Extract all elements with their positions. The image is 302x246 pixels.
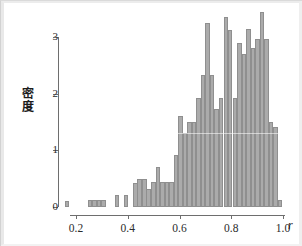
plot-area	[59, 37, 287, 207]
y-axis-tick-label: 1	[42, 144, 58, 155]
x-axis-tick-label: 0.4	[113, 222, 143, 234]
histogram-bar	[65, 201, 70, 207]
x-axis-tick	[283, 215, 284, 219]
histogram-bar	[101, 200, 106, 207]
histogram-bar	[124, 195, 129, 207]
histogram-bar	[115, 195, 120, 207]
x-axis-tick	[76, 215, 77, 219]
y-axis-tick-label: 0	[42, 201, 58, 212]
x-axis-tick-label: 1.0	[268, 222, 298, 234]
y-axis-tick-label: 2	[42, 88, 58, 99]
x-axis-tick-label: 0.2	[61, 222, 91, 234]
x-axis-tick	[180, 215, 181, 219]
x-axis-tick	[128, 215, 129, 219]
y-axis-line	[58, 37, 59, 207]
x-axis-tick	[231, 215, 232, 219]
histogram-bar	[278, 200, 283, 207]
histogram-chart: 0123 密度 0.20.40.60.81.0 r	[0, 0, 302, 246]
x-axis-tick-label: 0.6	[165, 222, 195, 234]
histogram-bars	[59, 37, 287, 207]
histogram-bar	[273, 127, 278, 207]
figure-page: 0123 密度 0.20.40.60.81.0 r	[0, 0, 302, 246]
x-axis-tick-label: 0.8	[216, 222, 246, 234]
x-axis-title: r	[288, 218, 293, 233]
x-axis-line	[70, 215, 285, 216]
y-axis-title: 密度	[20, 88, 35, 114]
y-axis-tick-label: 3	[42, 31, 58, 42]
